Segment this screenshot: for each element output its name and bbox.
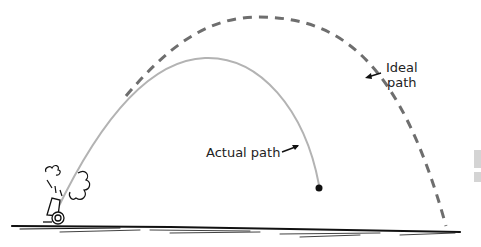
ground-line	[12, 226, 460, 237]
ideal-path-label-line1: Ideal	[386, 60, 418, 75]
smoke-puff	[46, 166, 90, 200]
page-edge-mark	[474, 172, 481, 182]
actual-path-curve	[56, 58, 319, 212]
actual-path-label: Actual path	[206, 145, 280, 160]
ideal-path-label-line2: path	[386, 75, 418, 90]
projectile-diagram	[0, 0, 481, 247]
cannonball	[316, 185, 323, 192]
page-edge-mark	[474, 150, 481, 168]
ideal-path-label: Ideal path	[386, 60, 418, 90]
ideal-path-curve	[126, 17, 446, 226]
